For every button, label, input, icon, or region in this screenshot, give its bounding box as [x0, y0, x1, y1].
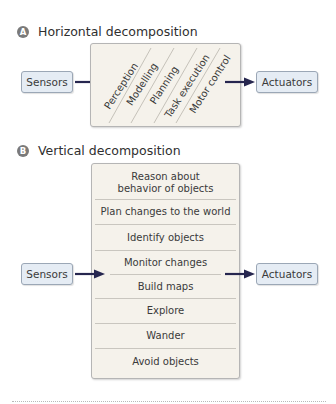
layer-plan-changes: Plan changes to the world	[92, 200, 239, 224]
horizontal-layers-panel: Perception Modelling Planning Task execu…	[90, 43, 241, 127]
layer-reason-about-behavior: Reason about behavior of objects	[92, 167, 239, 199]
layer-build-maps: Build maps	[92, 275, 239, 298]
arrow-icon	[74, 268, 106, 280]
layer-explore: Explore	[92, 299, 239, 323]
actuators-node-a: Actuators	[256, 71, 318, 93]
actuators-label: Actuators	[262, 268, 312, 280]
layer-avoid-objects: Avoid objects	[92, 349, 239, 375]
layer-wander: Wander	[92, 324, 239, 348]
section-a-badge: A	[17, 26, 29, 38]
actuators-label: Actuators	[262, 76, 312, 88]
sensors-label: Sensors	[26, 268, 67, 280]
actuators-node-b: Actuators	[256, 263, 318, 285]
sensors-node-a: Sensors	[21, 71, 73, 93]
arrow-icon	[224, 268, 256, 280]
arrow-icon	[224, 76, 256, 88]
sensors-node-b: Sensors	[21, 263, 73, 285]
dotted-divider	[12, 401, 326, 402]
section-b-badge: B	[17, 145, 29, 157]
section-b-title: Vertical decomposition	[38, 144, 181, 158]
layer-monitor-changes: Monitor changes	[92, 251, 239, 274]
section-a-title: Horizontal decomposition	[38, 25, 198, 39]
vertical-layers-panel: Reason about behavior of objects Plan ch…	[91, 163, 240, 379]
layer-identify-objects: Identify objects	[92, 225, 239, 250]
sensors-label: Sensors	[26, 76, 67, 88]
